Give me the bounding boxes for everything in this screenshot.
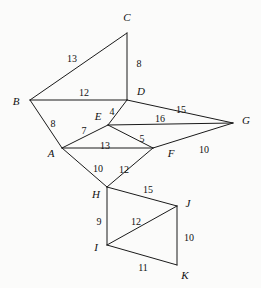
graph-edge-FH	[107, 148, 153, 187]
edge-weight-IK: 11	[138, 263, 148, 273]
vertex-label-F: F	[168, 148, 175, 159]
vertex-label-K: K	[181, 270, 188, 281]
vertex-label-B: B	[13, 96, 20, 107]
graph-edge-FG	[153, 123, 233, 148]
edge-weight-FG: 10	[199, 145, 209, 155]
graph-figure: ABCDEFGHIJK 1381284151675131010121591210…	[0, 0, 261, 288]
edge-weight-EF: 5	[140, 134, 145, 144]
edge-weight-HI: 9	[97, 217, 102, 227]
edge-weight-IJ: 12	[131, 217, 141, 227]
graph-edge-EG	[108, 123, 233, 125]
graph-canvas	[0, 0, 261, 288]
edge-weight-HJ: 15	[143, 185, 153, 195]
vertex-label-J: J	[186, 198, 191, 209]
vertex-label-G: G	[242, 115, 250, 126]
edge-weight-BC: 13	[67, 54, 77, 64]
vertex-label-A: A	[48, 148, 55, 159]
edge-weight-JK: 10	[184, 233, 194, 243]
edge-weight-BD: 12	[79, 88, 89, 98]
edge-weight-AE: 7	[82, 126, 87, 136]
graph-edge-EF	[108, 125, 153, 148]
vertex-label-I: I	[94, 242, 98, 253]
graph-edge-IJ	[107, 206, 177, 245]
edge-weight-AH: 10	[93, 164, 103, 174]
edge-weight-DE: 4	[110, 107, 115, 117]
vertex-label-E: E	[95, 111, 102, 122]
edge-weight-AF: 13	[100, 141, 110, 151]
graph-edge-HJ	[107, 187, 177, 206]
edge-weight-AB: 8	[51, 119, 56, 129]
vertex-label-D: D	[137, 86, 145, 97]
graph-edge-AB	[30, 100, 62, 148]
vertex-label-H: H	[92, 189, 100, 200]
edge-weight-CD: 8	[137, 59, 142, 69]
edge-weight-DG: 15	[176, 105, 186, 115]
vertex-label-C: C	[123, 12, 130, 23]
edge-weight-FH: 12	[119, 165, 129, 175]
edge-weight-EG: 16	[155, 114, 165, 124]
